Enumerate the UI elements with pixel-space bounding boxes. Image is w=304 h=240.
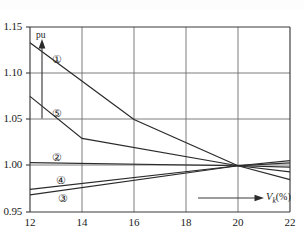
- grid-horizontal: [30, 73, 290, 165]
- vk-arrow-annotation: [198, 195, 264, 202]
- x-tick-label-18: 18: [174, 216, 198, 228]
- x-tick-label-14: 14: [70, 216, 94, 228]
- y-tick-label-1-05: 1.05: [0, 112, 22, 124]
- x-tick-label-12: 12: [18, 216, 42, 228]
- curve-line-5: [30, 96, 290, 171]
- curve-tag-2: ②: [52, 152, 62, 163]
- chart-figure: 1.15 1.10 1.05 1.00 0.95 12 14 16 18 20 …: [0, 0, 304, 240]
- y-tick-label-1-00: 1.00: [0, 158, 22, 170]
- x-axis-unit: (%): [276, 191, 291, 202]
- pu-arrow-annotation: [39, 39, 46, 119]
- x-axis-name-label: Vk(%): [266, 191, 291, 205]
- x-tick-label-16: 16: [122, 216, 146, 228]
- y-tick-label-1-10: 1.10: [0, 66, 22, 78]
- x-tick-label-22: 22: [278, 216, 302, 228]
- curve-tag-1: ①: [52, 54, 62, 65]
- y-tick-marks: [26, 27, 30, 212]
- curve-line-1: [30, 43, 290, 180]
- curve-tag-5: ⑤: [52, 108, 62, 119]
- y-tick-label-1-15: 1.15: [0, 20, 22, 32]
- curve-tag-4: ④: [56, 175, 66, 186]
- x-tick-label-20: 20: [226, 216, 250, 228]
- curve-tag-3: ③: [58, 193, 68, 204]
- y-axis-unit-label: pu: [36, 30, 46, 40]
- plot-frame: [30, 27, 290, 212]
